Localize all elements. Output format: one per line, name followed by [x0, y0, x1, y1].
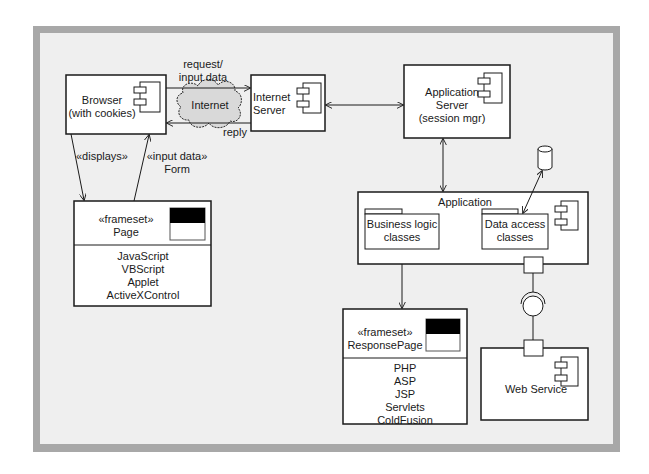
frameset-icon — [170, 208, 205, 240]
response-page-item: JSP — [360, 388, 450, 401]
database-icon — [538, 146, 552, 170]
page-items: JavaScript VBScript Applet ActiveXContro… — [100, 250, 186, 302]
business-logic-label-line1: Business logic — [365, 218, 439, 231]
request-label-line2: input data — [168, 71, 238, 84]
business-logic-label: Business logic classes — [365, 218, 439, 244]
internet-server-label-line2: Server — [253, 104, 299, 117]
application-server-label-line1: Application — [412, 86, 492, 99]
browser-label: Browser (with cookies) — [66, 94, 138, 120]
application-title: Application — [430, 196, 500, 209]
response-page-item: Servlets — [360, 401, 450, 414]
displays-label: «displays» — [74, 150, 130, 163]
application-server-label-line2: Server — [412, 99, 492, 112]
response-page-name: ResponsePage — [345, 339, 425, 352]
application-server-label-line3: (session mgr) — [412, 112, 492, 125]
page-item: VBScript — [100, 263, 186, 276]
input-form-label-line1: «input data» — [144, 150, 210, 163]
input-form-label: «input data» Form — [144, 150, 210, 176]
response-page-items: PHP ASP JSP Servlets ColdFusion — [360, 362, 450, 427]
internet-server-label: Internet Server — [253, 91, 299, 117]
page-header: «frameset» Page — [96, 213, 156, 239]
request-label-line1: request/ — [168, 58, 238, 71]
page-name: Page — [96, 226, 156, 239]
response-page-stereotype: «frameset» — [345, 326, 425, 339]
response-page-item: ASP — [360, 375, 450, 388]
browser-label-line2: (with cookies) — [66, 107, 138, 120]
web-service-label: Web Service — [496, 383, 576, 396]
business-logic-label-line2: classes — [365, 231, 439, 244]
data-access-label-line2: classes — [482, 231, 548, 244]
data-access-label-line1: Data access — [482, 218, 548, 231]
internet-server-label-line1: Internet — [253, 91, 299, 104]
browser-label-line1: Browser — [66, 94, 138, 107]
page-stereotype: «frameset» — [96, 213, 156, 226]
web-service-port — [524, 340, 543, 356]
internet-label: Internet — [180, 99, 240, 112]
response-page-item: ColdFusion — [360, 414, 450, 427]
provided-interface-lollipop-icon — [523, 296, 543, 316]
input-form-label-line2: Form — [144, 163, 210, 176]
request-label: request/ input data — [168, 58, 238, 84]
response-page-item: PHP — [360, 362, 450, 375]
application-server-label: Application Server (session mgr) — [412, 86, 492, 125]
application-port — [524, 257, 543, 273]
response-page-header: «frameset» ResponsePage — [345, 326, 425, 352]
frameset-icon — [426, 319, 460, 351]
page-item: ActiveXControl — [100, 289, 186, 302]
reply-label: reply — [220, 126, 250, 139]
page-item: Applet — [100, 276, 186, 289]
data-access-label: Data access classes — [482, 218, 548, 244]
page-item: JavaScript — [100, 250, 186, 263]
